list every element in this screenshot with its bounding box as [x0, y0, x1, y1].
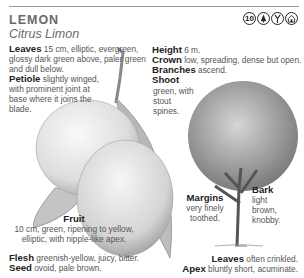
key-icons: 10 — [243, 12, 298, 25]
leaves-label: Leaves — [9, 43, 42, 54]
seed-text: ovoid, pale brown. — [32, 263, 102, 273]
fruit-text: 10 cm, green, ripening to yellow, ellipt… — [9, 224, 139, 244]
bark-label: Bark — [252, 185, 292, 195]
flesh-text: greenish-yellow, juicy, bitter. — [34, 253, 139, 263]
leaves-note-label: Leaves — [211, 253, 244, 264]
branches-text: ascend. — [196, 65, 227, 75]
scientific-name: Citrus Limon — [9, 27, 79, 41]
tree-description: Height 6 m. Crown low, spreading, dense … — [152, 45, 302, 85]
fruit-description: Fruit 10 cm, green, ripening to yellow, … — [9, 214, 139, 244]
margins-description: Margins very finely toothed. — [184, 193, 226, 223]
leaves-note-text: often crinkled. — [244, 254, 298, 264]
shoot-label: Shoot — [152, 74, 179, 85]
petiole-label: Petiole — [9, 73, 40, 84]
evergreen-tree-icon — [257, 12, 270, 25]
fruit-label: Fruit — [9, 214, 139, 224]
height-text: 6 m. — [182, 45, 200, 55]
top-rule — [9, 6, 299, 7]
leaf-notes: Leaves often crinkled. Apex bluntly shor… — [128, 254, 298, 274]
habitat-icon — [285, 12, 298, 25]
seed-label: Seed — [9, 262, 32, 273]
branch-leaf-icon — [271, 12, 284, 25]
height-10-icon: 10 — [243, 12, 256, 25]
margins-text: very finely toothed. — [184, 203, 226, 223]
margins-label: Margins — [184, 193, 226, 203]
apex-label: Apex — [182, 263, 205, 274]
petiole-description: Petiole slightly winged, with prominent … — [9, 74, 101, 114]
bark-text: light brown, knobby. — [252, 195, 292, 225]
apex-text: bluntly short, acuminate. — [206, 264, 298, 274]
crown-text: low, spreading, dense but open. — [182, 55, 301, 65]
common-name: LEMON — [9, 13, 59, 27]
bark-description: Bark light brown, knobby. — [252, 185, 292, 225]
shoot-text: green, with stout spines. — [153, 86, 194, 116]
shoot-description: green, with stout spines. — [153, 86, 198, 116]
leaves-description: Leaves 15 cm, elliptic, evergreen, gloss… — [9, 44, 149, 74]
